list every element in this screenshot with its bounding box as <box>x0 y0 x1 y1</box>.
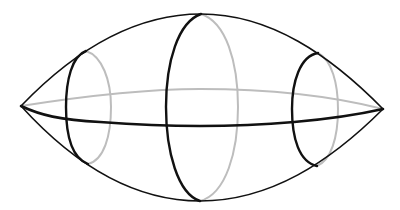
equator-back-line <box>21 89 383 109</box>
left-section-front-arc <box>66 51 88 164</box>
visible-lines <box>21 14 383 201</box>
middle-section-back-arc <box>200 14 238 201</box>
equator-front-line <box>21 106 383 126</box>
right-section-back-arc <box>317 53 338 166</box>
hidden-lines <box>21 14 383 201</box>
right-section-front-arc <box>292 53 318 166</box>
left-section-back-arc <box>86 51 111 164</box>
outline <box>21 14 383 201</box>
middle-section-front-arc <box>166 14 201 201</box>
lemon-surface-diagram <box>0 0 400 210</box>
